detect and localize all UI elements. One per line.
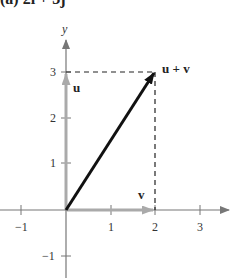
- y-tick-label-neg1: −1: [42, 249, 55, 263]
- x-tick-label-1: 1: [108, 220, 114, 234]
- y-tick-label-1: 1: [50, 156, 56, 170]
- label-u-plus-v: u + v: [162, 61, 190, 76]
- label-v: v: [138, 187, 145, 202]
- y-axis-label: y: [61, 22, 68, 36]
- y-tick-label-3: 3: [50, 65, 56, 79]
- x-tick-label-2: 2: [152, 220, 158, 234]
- label-u: u: [73, 80, 80, 95]
- vector-diagram: y u v u + v −1 1 2 3 3 2 1 −1: [0, 0, 234, 278]
- x-tick-label-neg1: −1: [15, 220, 28, 234]
- y-tick-label-2: 2: [50, 111, 56, 125]
- x-tick-label-3: 3: [197, 220, 203, 234]
